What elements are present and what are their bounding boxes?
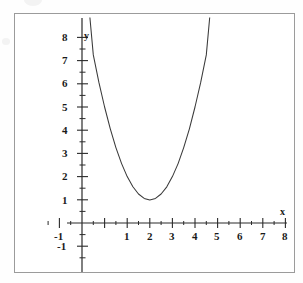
parabola-curve — [90, 18, 210, 201]
x-tick-label-6: 6 — [237, 231, 243, 242]
y-tick-label-6: 6 — [62, 78, 68, 89]
x-tick-label-7: 7 — [260, 231, 266, 242]
x-axis-name: x — [280, 207, 285, 217]
y-tick-label-1: 1 — [62, 195, 68, 206]
x-tick-label-neg1: -1 — [54, 231, 63, 242]
y-tick-label-8: 8 — [62, 32, 68, 43]
y-tick-label-neg1: -1 — [57, 241, 66, 252]
x-tick-label-8: 8 — [282, 231, 288, 242]
y-tick-label-2: 2 — [62, 171, 68, 182]
scan-artifact-left — [2, 38, 10, 45]
y-tick-label-4: 4 — [62, 125, 68, 136]
scan-artifact-top — [24, 0, 42, 6]
y-tick-label-5: 5 — [62, 102, 68, 113]
y-tick-label-3: 3 — [62, 148, 68, 159]
x-tick-label-1: 1 — [124, 231, 130, 242]
screenshot-root: 8 7 6 5 4 3 2 1 -1 -1 1 2 3 4 5 6 7 8 y … — [0, 0, 303, 283]
y-axis-name: y — [84, 31, 89, 41]
x-tick-label-2: 2 — [147, 231, 153, 242]
plot-frame: 8 7 6 5 4 3 2 1 -1 -1 1 2 3 4 5 6 7 8 y … — [14, 13, 295, 273]
x-tick-label-4: 4 — [192, 231, 198, 242]
x-tick-label-3: 3 — [169, 231, 175, 242]
x-tick-label-5: 5 — [214, 231, 220, 242]
y-tick-label-7: 7 — [62, 55, 68, 66]
